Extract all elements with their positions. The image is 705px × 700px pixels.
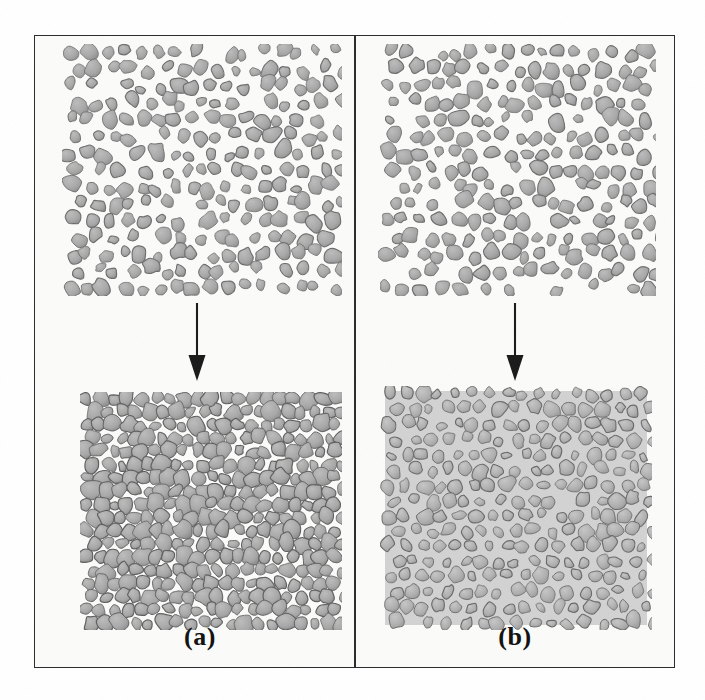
- grain-particle: [607, 78, 620, 92]
- grain-particle: [185, 111, 198, 123]
- grain-particle: [232, 66, 240, 76]
- grain-particle: [384, 162, 401, 177]
- grain-particle: [204, 79, 217, 91]
- grain-particle: [225, 153, 235, 162]
- grain-particle: [436, 281, 450, 295]
- grain-particle: [637, 149, 651, 165]
- grain-particle: [451, 388, 459, 397]
- grain-particle: [90, 200, 105, 211]
- grain-particle: [294, 617, 307, 630]
- grain-particle: [319, 589, 334, 604]
- grain-particle: [387, 126, 402, 142]
- grain-particle: [300, 420, 312, 432]
- grain-particle: [231, 577, 244, 591]
- grain-particle: [642, 601, 650, 611]
- grain-particle: [263, 196, 277, 211]
- grain-particle: [401, 386, 413, 399]
- grain-particle: [517, 134, 527, 144]
- grain-particle: [183, 164, 193, 178]
- grain-particle: [283, 432, 294, 443]
- grain-particle: [521, 569, 530, 579]
- grain-particle: [442, 233, 456, 246]
- grain-particle: [544, 133, 556, 145]
- grain-particle: [509, 197, 522, 209]
- grain-particle: [605, 216, 614, 225]
- grain-particle: [226, 47, 239, 64]
- grain-particle: [306, 77, 320, 92]
- grain-particle: [121, 79, 134, 89]
- grain-particle: [627, 284, 639, 293]
- grain-particle: [127, 482, 141, 495]
- grain-particle: [538, 508, 547, 518]
- grain-particle: [394, 212, 407, 223]
- grain-particle: [326, 576, 341, 590]
- grain-particle: [516, 391, 527, 400]
- grain-particle: [578, 64, 590, 75]
- grain-particle: [550, 286, 563, 296]
- grain-particle: [128, 264, 142, 278]
- grain-particle: [291, 244, 305, 259]
- grain-particle: [324, 211, 341, 230]
- grain-particle: [618, 109, 633, 126]
- grain-particle: [643, 244, 656, 262]
- grain-particle: [279, 563, 297, 578]
- grain-particle: [457, 132, 473, 147]
- grain-particle: [119, 461, 127, 471]
- grain-particle: [229, 261, 238, 272]
- grain-particle: [189, 182, 201, 195]
- grain-particle: [598, 229, 615, 244]
- grain-particle: [205, 549, 220, 564]
- grain-particle: [246, 392, 261, 404]
- grain-particle: [163, 169, 173, 179]
- grain-particle: [215, 602, 232, 619]
- grain-particle: [390, 437, 402, 447]
- grain-particle: [335, 407, 342, 419]
- grain-particle: [338, 66, 342, 79]
- grain-particle: [595, 61, 611, 78]
- grain-particle: [579, 431, 593, 445]
- grain-particle: [220, 81, 232, 91]
- grain-particle: [632, 229, 642, 239]
- grain-particle: [480, 478, 494, 492]
- grain-particle: [507, 80, 516, 91]
- grain-particle: [136, 46, 147, 59]
- grain-particle: [458, 162, 471, 177]
- grain-particle: [175, 101, 185, 112]
- grain-particle: [407, 555, 417, 563]
- grain-particle: [585, 417, 601, 429]
- grain-particle: [209, 265, 223, 280]
- grain-particle: [307, 281, 317, 290]
- grain-particle: [378, 247, 396, 261]
- grain-particle: [154, 45, 166, 59]
- grain-particle: [301, 576, 314, 589]
- grain-particle: [616, 99, 624, 108]
- grain-particle: [564, 233, 573, 244]
- grain-particle: [191, 607, 203, 616]
- grain-particle: [300, 605, 310, 615]
- grain-particle: [552, 147, 563, 158]
- grain-particle: [126, 512, 143, 524]
- grain-particle: [423, 617, 433, 628]
- grain-particle: [185, 245, 197, 259]
- grain-particle: [568, 45, 579, 56]
- grain-particle: [272, 441, 286, 456]
- grain-particle: [65, 210, 81, 224]
- grain-particle: [156, 405, 169, 419]
- grain-particle: [63, 46, 78, 60]
- figure-root: (a) (b): [0, 0, 705, 700]
- grain-particle: [285, 392, 300, 404]
- grain-particle: [222, 281, 236, 294]
- grain-particle: [606, 46, 618, 58]
- grain-particle: [323, 76, 338, 92]
- grain-particle: [400, 183, 410, 193]
- grain-particle: [264, 93, 277, 109]
- grain-particle: [121, 246, 130, 257]
- grain-particle: [487, 79, 498, 89]
- grain-particle: [274, 576, 286, 590]
- grain-particle: [236, 146, 249, 158]
- grain-stage-a-after: [80, 392, 342, 630]
- grain-particle: [466, 386, 477, 396]
- grain-particle: [119, 447, 132, 459]
- grain-particle: [561, 269, 572, 279]
- grain-particle: [246, 127, 262, 142]
